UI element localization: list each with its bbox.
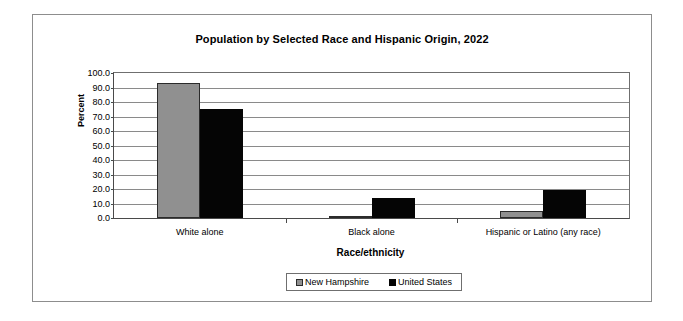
bar-new-hampshire-1 — [329, 216, 372, 218]
chart-title: Population by Selected Race and Hispanic… — [33, 33, 651, 45]
y-tick-label: 100.0 — [87, 68, 110, 78]
y-tick-mark — [111, 117, 114, 118]
category-label: Black alone — [348, 227, 395, 237]
y-tick-mark — [111, 189, 114, 190]
y-tick-label: 80.0 — [92, 97, 110, 107]
y-tick-label: 50.0 — [92, 141, 110, 151]
x-axis-title: Race/ethnicity — [113, 247, 628, 258]
y-tick-mark — [111, 88, 114, 89]
y-axis-title: Percent — [76, 94, 86, 127]
y-tick-mark — [111, 102, 114, 103]
y-tick-mark — [111, 204, 114, 205]
bar-new-hampshire-2 — [500, 211, 543, 218]
chart-frame: Population by Selected Race and Hispanic… — [32, 14, 652, 302]
legend-swatch-icon — [389, 279, 396, 286]
y-tick-label: 90.0 — [92, 83, 110, 93]
y-tick-mark — [111, 218, 114, 219]
y-tick-mark — [111, 160, 114, 161]
y-tick-label: 20.0 — [92, 184, 110, 194]
y-tick-label: 30.0 — [92, 170, 110, 180]
bar-united-states-2 — [543, 190, 586, 218]
category-label: Hispanic or Latino (any race) — [486, 227, 601, 237]
plot-area: 100.090.080.070.060.050.040.030.020.010.… — [113, 72, 630, 219]
y-tick-label: 0.0 — [97, 213, 110, 223]
legend-entry-united-states[interactable]: United States — [389, 277, 452, 287]
legend-label: New Hampshire — [305, 277, 369, 287]
category-divider — [286, 218, 287, 223]
bar-new-hampshire-0 — [157, 83, 200, 218]
legend-entry-new-hampshire[interactable]: New Hampshire — [296, 277, 369, 287]
chart-legend: New HampshireUnited States — [286, 273, 462, 291]
legend-label: United States — [398, 277, 452, 287]
bar-united-states-0 — [200, 109, 243, 218]
y-tick-label: 10.0 — [92, 199, 110, 209]
category-label: White alone — [176, 227, 224, 237]
y-tick-label: 40.0 — [92, 155, 110, 165]
y-tick-mark — [111, 146, 114, 147]
y-tick-label: 70.0 — [92, 112, 110, 122]
legend-swatch-icon — [296, 279, 303, 286]
y-tick-label: 60.0 — [92, 126, 110, 136]
y-tick-mark — [111, 175, 114, 176]
y-tick-mark — [111, 131, 114, 132]
y-tick-mark — [111, 73, 114, 74]
category-divider — [457, 218, 458, 223]
bar-united-states-1 — [372, 198, 415, 218]
